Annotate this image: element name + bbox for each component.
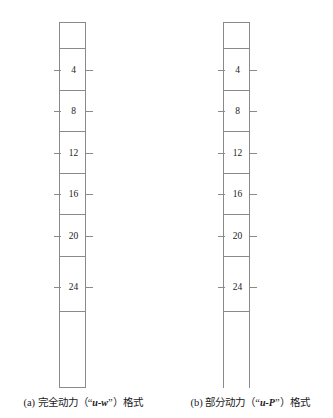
element-divider (60, 48, 85, 49)
tick-stub-left-icon (218, 153, 225, 154)
node-tick-label: 8 (234, 106, 241, 116)
tick-stub-left-icon (218, 236, 225, 237)
tick-stub-right-icon (250, 236, 257, 237)
tick-stub-right-icon (86, 70, 93, 71)
node-tick-label: 4 (70, 65, 77, 75)
element-divider (60, 131, 85, 132)
panel-b-caption: (b) 部分动力（“u-P”）格式 (167, 396, 333, 410)
element-divider (60, 173, 85, 174)
tick-stub-left-icon (218, 70, 225, 71)
element-divider (224, 214, 249, 215)
column-mesh-a: 4 8 12 16 20 (59, 22, 86, 388)
figure-container: 4 8 12 16 20 (0, 0, 333, 418)
tick-stub-right-icon (250, 111, 257, 112)
caption-text-part1: 完全动力（“ (38, 397, 93, 408)
caption-prefix: (a) (23, 397, 35, 408)
node-tick-label: 16 (232, 189, 244, 199)
caption-text-part1: 部分动力（“ (205, 397, 260, 408)
tick-stub-right-icon (250, 153, 257, 154)
caption-text-part2: ”）格式 (275, 397, 310, 408)
tick-stub-left-icon (54, 194, 61, 195)
tick-stub-right-icon (250, 194, 257, 195)
element-divider (224, 131, 249, 132)
node-tick-label: 4 (234, 65, 241, 75)
tick-stub-right-icon (86, 153, 93, 154)
node-tick-label: 24 (68, 282, 80, 292)
element-divider (224, 311, 249, 312)
panel-b: 4 8 12 16 20 (167, 0, 333, 418)
tick-stub-right-icon (250, 70, 257, 71)
tick-stub-left-icon (54, 287, 61, 288)
tick-stub-left-icon (218, 287, 225, 288)
tick-stub-left-icon (54, 111, 61, 112)
element-divider (224, 90, 249, 91)
node-tick-label: 12 (232, 148, 244, 158)
panel-a-caption: (a) 完全动力（“u-w”）格式 (0, 396, 166, 410)
element-divider (60, 214, 85, 215)
tick-stub-right-icon (86, 287, 93, 288)
tick-stub-left-icon (54, 153, 61, 154)
tick-stub-right-icon (86, 111, 93, 112)
tick-stub-right-icon (86, 236, 93, 237)
element-divider (60, 256, 85, 257)
node-tick-label: 20 (68, 231, 80, 241)
column-mesh-b: 4 8 12 16 20 (223, 22, 250, 388)
node-tick-label: 20 (232, 231, 244, 241)
element-divider (224, 48, 249, 49)
node-tick-label: 8 (70, 106, 77, 116)
tick-stub-left-icon (218, 194, 225, 195)
tick-stub-right-icon (86, 194, 93, 195)
element-divider (224, 256, 249, 257)
element-divider (60, 311, 85, 312)
caption-prefix: (b) (190, 397, 202, 408)
tick-stub-left-icon (218, 111, 225, 112)
element-divider (60, 90, 85, 91)
caption-symbol: u-w (92, 397, 108, 408)
caption-symbol: u-P (260, 397, 275, 408)
tick-stub-left-icon (54, 236, 61, 237)
element-divider (224, 173, 249, 174)
tick-stub-left-icon (54, 70, 61, 71)
caption-text-part2: ”）格式 (108, 397, 143, 408)
node-tick-label: 16 (68, 189, 80, 199)
tick-stub-right-icon (250, 287, 257, 288)
node-tick-label: 12 (68, 148, 80, 158)
node-tick-label: 24 (232, 282, 244, 292)
panel-a: 4 8 12 16 20 (0, 0, 166, 418)
